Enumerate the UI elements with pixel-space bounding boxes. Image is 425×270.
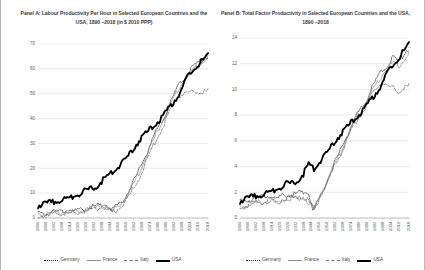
x-tick-label: 1908 — [59, 221, 64, 231]
series-line-usa — [38, 53, 208, 208]
y-tick-label: 8 — [234, 112, 237, 117]
x-tick-label: 1986 — [364, 221, 369, 231]
panel-a-svg: 0102030405060701890189619021908191419201… — [12, 0, 214, 270]
legend-label-usa: USA — [172, 257, 182, 262]
x-tick-label: 1914 — [269, 221, 274, 231]
x-tick-label: 1956 — [324, 221, 329, 231]
x-tick-label: 1896 — [43, 221, 48, 231]
y-tick-label: 12 — [232, 61, 238, 66]
legend-item-usa[interactable]: USA — [357, 257, 383, 262]
legend-label-germany: Germany — [60, 257, 79, 262]
y-tick-label: 60 — [30, 66, 36, 71]
x-tick-label: 1908 — [261, 221, 266, 231]
legend-label-italy: Italy — [140, 257, 149, 262]
legend-label-france: France — [103, 257, 118, 262]
x-tick-label: 1986 — [163, 221, 168, 231]
x-tick-label: 1998 — [179, 221, 184, 231]
legend-item-italy[interactable]: Italy — [326, 257, 351, 262]
x-tick-label: 2010 — [396, 221, 401, 231]
chart-panel-a: Panel A: Labour Productivity Per Hour in… — [12, 0, 214, 270]
x-tick-label: 1956 — [123, 221, 128, 231]
x-tick-label: 1926 — [285, 221, 290, 231]
x-tick-label: 1926 — [83, 221, 88, 231]
x-tick-label: 1938 — [99, 221, 104, 231]
x-tick-label: 1902 — [51, 221, 56, 231]
legend-item-usa[interactable]: USA — [156, 257, 182, 262]
x-tick-label: 2018 — [406, 221, 411, 231]
panel-b-legend: GermanyFranceItalyUSA — [214, 257, 415, 262]
legend-label-usa: USA — [373, 257, 383, 262]
x-tick-label: 1950 — [115, 221, 120, 231]
x-tick-label: 1992 — [372, 221, 377, 231]
y-tick-label: 4 — [234, 164, 237, 169]
x-tick-label: 2018 — [205, 221, 210, 231]
y-tick-label: 20 — [30, 166, 36, 171]
x-tick-label: 1890 — [35, 221, 40, 231]
panel-b-svg: 0246810121418901896190219081914192019261… — [214, 0, 415, 270]
x-tick-label: 1896 — [245, 221, 250, 231]
x-tick-label: 1920 — [277, 221, 282, 231]
x-tick-label: 1932 — [293, 221, 298, 231]
y-tick-label: 70 — [30, 41, 36, 46]
line-bold-icon — [357, 258, 371, 262]
legend-label-france: France — [304, 257, 319, 262]
figure-container: Panel A: Labour Productivity Per Hour in… — [0, 0, 425, 270]
line-solid-icon — [288, 258, 302, 262]
x-tick-label: 1974 — [147, 221, 152, 231]
y-tick-label: 30 — [30, 141, 36, 146]
series-line-france — [240, 51, 409, 209]
y-tick-label: 10 — [30, 190, 36, 195]
x-tick-label: 1944 — [308, 221, 313, 231]
panel-b-plot-area: 0246810121418901896190219081914192019261… — [214, 0, 415, 270]
series-line-germany — [240, 50, 409, 210]
y-tick-label: 0 — [32, 215, 35, 220]
x-tick-label: 2004 — [388, 221, 393, 231]
x-tick-label: 1950 — [316, 221, 321, 231]
y-tick-label: 0 — [234, 215, 237, 220]
y-tick-label: 6 — [234, 138, 237, 143]
y-tick-label: 2 — [234, 190, 237, 195]
x-tick-label: 1998 — [380, 221, 385, 231]
x-tick-label: 1992 — [171, 221, 176, 231]
x-tick-label: 2004 — [187, 221, 192, 231]
legend-item-germany[interactable]: Germany — [44, 257, 79, 262]
legend-label-germany: Germany — [262, 257, 281, 262]
x-tick-label: 1938 — [301, 221, 306, 231]
x-tick-label: 1974 — [348, 221, 353, 231]
panel-a-plot-area: 0102030405060701890189619021908191419201… — [12, 0, 214, 270]
x-tick-label: 1944 — [107, 221, 112, 231]
legend-item-germany[interactable]: Germany — [246, 257, 281, 262]
legend-item-italy[interactable]: Italy — [124, 257, 149, 262]
x-tick-label: 1980 — [356, 221, 361, 231]
y-tick-label: 10 — [232, 87, 238, 92]
x-tick-label: 1962 — [332, 221, 337, 231]
legend-item-france[interactable]: France — [87, 257, 118, 262]
line-solid-icon — [87, 258, 101, 262]
x-tick-label: 2010 — [195, 221, 200, 231]
x-tick-label: 1962 — [131, 221, 136, 231]
x-tick-label: 1968 — [139, 221, 144, 231]
line-bold-icon — [156, 258, 170, 262]
line-dotted-icon — [44, 258, 58, 262]
series-line-usa — [240, 42, 409, 204]
line-dotted-icon — [246, 258, 260, 262]
x-tick-label: 1914 — [67, 221, 72, 231]
series-line-italy — [240, 84, 409, 210]
x-tick-label: 1920 — [75, 221, 80, 231]
line-dashed-icon — [326, 258, 340, 262]
x-tick-label: 1980 — [155, 221, 160, 231]
y-tick-label: 50 — [30, 91, 36, 96]
legend-item-france[interactable]: France — [288, 257, 319, 262]
line-dashed-icon — [124, 258, 138, 262]
chart-panel-b: Panel B: Total Factor Productivity in Se… — [214, 0, 415, 270]
x-tick-label: 1968 — [340, 221, 345, 231]
series-line-germany — [38, 58, 208, 216]
y-tick-label: 40 — [30, 116, 36, 121]
x-tick-label: 1890 — [237, 221, 242, 231]
x-tick-label: 1902 — [253, 221, 258, 231]
y-tick-label: 14 — [232, 35, 238, 40]
x-tick-label: 1932 — [91, 221, 96, 231]
legend-label-italy: Italy — [342, 257, 351, 262]
panel-a-legend: GermanyFranceItalyUSA — [12, 257, 214, 262]
